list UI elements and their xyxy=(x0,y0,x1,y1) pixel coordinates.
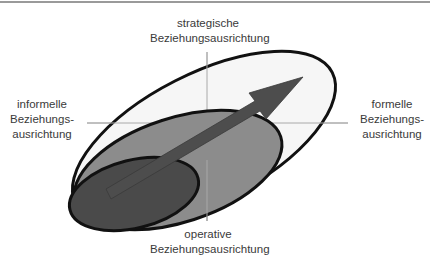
label-formal-line1: formelle xyxy=(354,97,430,112)
label-strategic-line1: strategische xyxy=(150,16,266,31)
label-informal-line1: informelle xyxy=(6,97,78,112)
label-informal-line3: ausrichtung xyxy=(6,127,78,142)
label-formal-line3: ausrichtung xyxy=(354,127,430,142)
label-formal: formelle Beziehungs- ausrichtung xyxy=(354,97,430,142)
label-operative-line2: Beziehungsausrichtung xyxy=(150,242,266,257)
label-informal: informelle Beziehungs- ausrichtung xyxy=(6,97,78,142)
label-operative: operative Beziehungsausrichtung xyxy=(150,227,266,257)
label-informal-line2: Beziehungs- xyxy=(6,112,78,127)
label-strategic: strategische Beziehungsausrichtung xyxy=(150,16,266,46)
label-operative-line1: operative xyxy=(150,227,266,242)
label-strategic-line2: Beziehungsausrichtung xyxy=(150,31,266,46)
label-formal-line2: Beziehungs- xyxy=(354,112,430,127)
